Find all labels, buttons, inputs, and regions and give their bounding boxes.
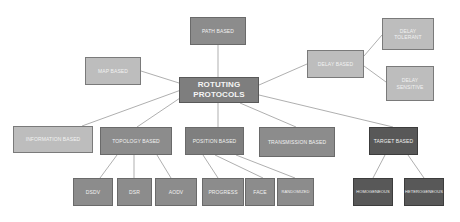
node-label: POSITION BASED <box>193 138 237 145</box>
node-heterogeneous: HETEROGENEOUS <box>404 178 444 206</box>
node-face: FACE <box>245 178 275 206</box>
routing-protocols-diagram: PATH BASED MAP BASED ROTUTING PROTOCOLS … <box>0 0 460 222</box>
node-progress: PROGRESS <box>202 178 244 206</box>
node-homogeneous: HOMOGENEOUS <box>353 178 393 206</box>
node-root-routing-protocols: ROTUTING PROTOCOLS <box>179 77 259 103</box>
node-label: DELAY BASED <box>318 61 353 68</box>
node-target-based: TARGET BASED <box>369 127 418 155</box>
node-label-line2: SENSITIVE <box>396 84 423 91</box>
node-position-based: POSITION BASED <box>185 127 244 155</box>
node-label: RANDOMIZED <box>282 189 310 194</box>
node-label: TARGET BASED <box>374 138 413 145</box>
node-label: HOMOGENEOUS <box>356 189 390 194</box>
root-label-line2: PROTOCOLS <box>193 90 244 100</box>
node-label: DSR <box>129 189 140 196</box>
node-aodv: AODV <box>155 178 197 206</box>
node-delay-based: DELAY BASED <box>307 50 364 78</box>
node-label: PATH BASED <box>202 28 234 35</box>
node-information-based: INFORMATION BASED <box>13 126 93 153</box>
node-randomized: RANDOMIZED <box>277 178 314 206</box>
node-label: HETEROGENEOUS <box>405 189 443 194</box>
node-dsr: DSR <box>117 178 152 206</box>
node-map-based: MAP BASED <box>85 57 141 85</box>
node-path-based: PATH BASED <box>190 17 246 45</box>
root-label-line1: ROTUTING <box>198 80 241 90</box>
node-dsdv: DSDV <box>73 178 113 206</box>
node-label: INFORMATION BASED <box>26 136 81 143</box>
node-topology-based: TOPOLOGY BASED <box>100 127 172 155</box>
node-transmission-based: TRANSMISSION BASED <box>259 127 335 157</box>
node-delay-sensitive: DELAY SENSITIVE <box>386 66 434 101</box>
node-delay-tolerant: DELAY TOLERANT <box>382 18 434 50</box>
node-label: MAP BASED <box>98 68 128 75</box>
node-label: PROGRESS <box>208 189 237 196</box>
node-label: TOPOLOGY BASED <box>112 138 160 145</box>
node-label: AODV <box>169 189 184 196</box>
node-label: DSDV <box>86 189 100 196</box>
node-label: FACE <box>253 189 266 196</box>
node-label: TRANSMISSION BASED <box>268 139 326 146</box>
node-label-line2: TOLERANT <box>394 34 421 41</box>
